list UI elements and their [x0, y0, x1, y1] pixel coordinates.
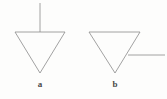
figure-container: a b [0, 0, 167, 99]
panel-label-a: a [33, 80, 47, 89]
panel-a-group [15, 3, 65, 73]
diagram-canvas [0, 0, 167, 99]
triangle-a-shape [15, 32, 65, 73]
panel-label-b: b [108, 80, 122, 89]
triangle-b-shape [89, 32, 140, 73]
panel-b-group [89, 32, 165, 73]
